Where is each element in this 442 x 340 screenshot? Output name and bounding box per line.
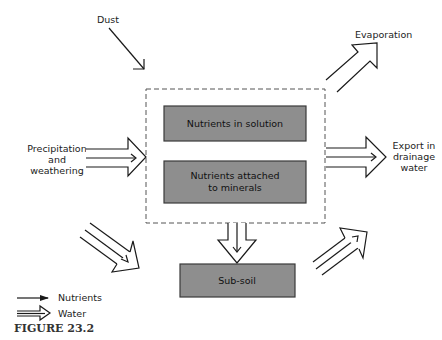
solution-box: Nutrients in solution (164, 106, 306, 141)
legend-water-label: Water (58, 308, 86, 319)
minerals-label-line2: to minerals (208, 182, 262, 193)
leaching-water-arrow (218, 223, 256, 263)
dust-arrow (109, 28, 144, 69)
legend-nutrients-arrow (17, 295, 49, 301)
precip-label-line1: Precipitation (27, 143, 86, 154)
subsoil-label: Sub-soil (218, 275, 256, 286)
export-label-line2: drainage (393, 151, 435, 162)
minerals-label-line1: Nutrients attached (190, 170, 279, 181)
lower-right-water-arrow (313, 228, 367, 275)
legend: Nutrients Water (17, 292, 102, 320)
evaporation-arrow (326, 43, 377, 92)
lower-left-water-arrow (80, 223, 139, 272)
solution-label: Nutrients in solution (187, 118, 283, 129)
export-label-line1: Export in (393, 140, 436, 151)
precip-label-line2: and (48, 154, 66, 165)
evaporation-label: Evaporation (355, 29, 412, 40)
legend-nutrients-label: Nutrients (58, 292, 102, 303)
legend-water-arrow (17, 306, 50, 320)
nutrient-cycle-diagram: Dust Nutrients in solution Nutrients att… (0, 0, 442, 340)
export-label-line3: water (400, 162, 427, 173)
minerals-box: Nutrients attached to minerals (164, 161, 306, 203)
subsoil-box: Sub-soil (180, 264, 295, 297)
dust-label: Dust (97, 14, 119, 25)
precip-label-line3: weathering (30, 165, 84, 176)
figure-label: FIGURE 23.2 (14, 322, 94, 335)
precipitation-water-arrow (86, 138, 146, 176)
export-water-arrow (326, 137, 386, 177)
